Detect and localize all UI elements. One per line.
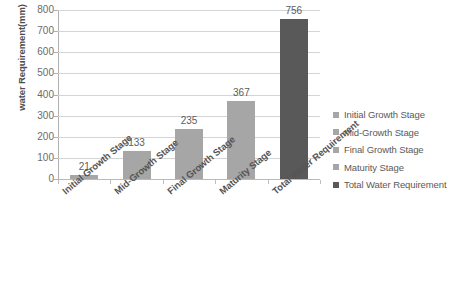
x-axis-tick-mark xyxy=(163,180,164,184)
legend-label: Maturity Stage xyxy=(344,162,404,173)
x-axis-tick-mark xyxy=(215,180,216,184)
y-axis-tick-label: 600 xyxy=(20,47,54,57)
bar-chart: water Requirement(mm) 800700600500400300… xyxy=(0,0,476,291)
y-axis-tick-label: 700 xyxy=(20,26,54,36)
legend-item[interactable]: Maturity Stage xyxy=(333,159,473,177)
y-axis-tick-mark xyxy=(54,116,58,117)
legend-label: Final Growth Stage xyxy=(344,144,424,155)
y-axis-tick-labels: 8007006005004003002001000 xyxy=(18,0,54,291)
bar-value-label: 756 xyxy=(269,6,319,16)
y-axis-tick-label: 800 xyxy=(20,5,54,15)
legend-swatch-icon xyxy=(333,164,339,170)
y-axis-tick-mark xyxy=(54,137,58,138)
legend-swatch-icon xyxy=(333,112,339,118)
bar-value-label: 367 xyxy=(216,88,266,98)
plot-area: 21133235367756 xyxy=(58,10,320,179)
bar-value-label: 235 xyxy=(164,116,214,126)
y-axis-tick-mark xyxy=(54,95,58,96)
bar[interactable] xyxy=(280,19,308,179)
legend-label: Total Water Requirement xyxy=(344,179,446,190)
legend-item[interactable]: Final Growth Stage xyxy=(333,141,473,159)
y-axis-tick-label: 400 xyxy=(20,90,54,100)
y-axis-tick-label: 300 xyxy=(20,111,54,121)
legend-label: Initial Growth Stage xyxy=(344,109,425,120)
y-axis-tick-mark xyxy=(54,52,58,53)
y-axis-tick-mark xyxy=(54,10,58,11)
legend-item[interactable]: Total Water Requirement xyxy=(333,176,473,194)
x-axis-tick-mark xyxy=(58,180,59,184)
legend-swatch-icon xyxy=(333,182,339,188)
y-axis-tick-label: 200 xyxy=(20,132,54,142)
x-axis-tick-mark xyxy=(110,180,111,184)
y-axis-tick-mark xyxy=(54,73,58,74)
y-axis-tick-mark xyxy=(54,158,58,159)
x-axis-tick-mark xyxy=(268,180,269,184)
y-axis-tick-label: 500 xyxy=(20,68,54,78)
y-axis-tick-mark xyxy=(54,31,58,32)
y-axis-tick-label: 100 xyxy=(20,153,54,163)
x-axis-tick-mark xyxy=(320,180,321,184)
y-axis-tick-label: 0 xyxy=(20,174,54,184)
